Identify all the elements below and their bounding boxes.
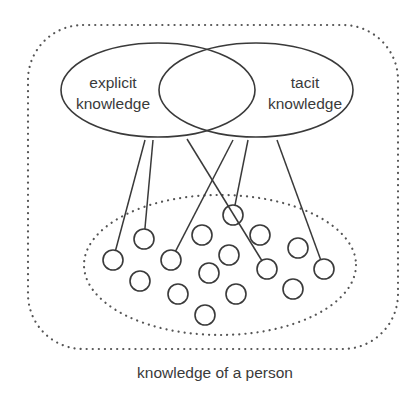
tacit-label-line1: tacit bbox=[291, 74, 320, 91]
explicit-label-line2: knowledge bbox=[76, 95, 150, 112]
explicit-label-line1: explicit bbox=[89, 74, 137, 91]
background bbox=[0, 0, 419, 397]
caption-knowledge-of-a-person: knowledge of a person bbox=[137, 364, 293, 381]
tacit-label-line2: knowledge bbox=[268, 95, 342, 112]
knowledge-diagram: explicit knowledge tacit knowledge knowl… bbox=[0, 0, 419, 397]
